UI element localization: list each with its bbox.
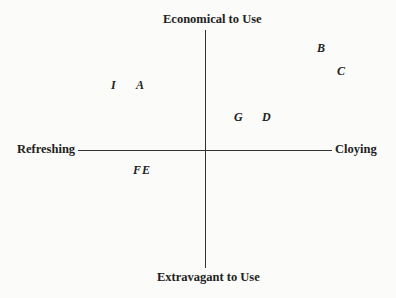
axis-label-bottom: Extravagant to Use: [157, 270, 260, 285]
point-label-g: G: [234, 110, 243, 125]
vertical-axis-line: [205, 30, 206, 268]
point-label-fe: FE: [133, 163, 151, 178]
axis-label-top: Economical to Use: [163, 12, 262, 27]
point-label-d: D: [262, 110, 271, 125]
point-label-i: I: [111, 78, 116, 93]
axis-label-left: Refreshing: [17, 142, 75, 157]
point-label-a: A: [136, 78, 144, 93]
horizontal-axis-line: [78, 150, 332, 151]
point-label-b: B: [317, 41, 325, 56]
axis-label-right: Cloying: [335, 142, 377, 157]
point-label-c: C: [337, 64, 345, 79]
